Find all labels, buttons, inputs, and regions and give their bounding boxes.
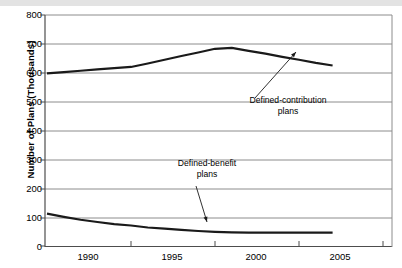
annotation-arrow-defined-contribution xyxy=(255,52,296,98)
y-axis-ticks xyxy=(40,15,45,246)
x-axis-ticks xyxy=(131,241,383,246)
series-line-defined-contribution xyxy=(47,48,333,73)
chart-plot xyxy=(0,0,402,268)
annotation-defined-benefit-line2: plans xyxy=(147,169,267,180)
chart-container: Number of Plans (Thousands) 800 700 600 … xyxy=(0,0,402,268)
annotation-defined-benefit: Defined-benefit plans xyxy=(147,158,267,180)
annotation-defined-contribution: Defined-contribution plans xyxy=(228,95,348,117)
annotation-defined-contribution-line1: Defined-contribution xyxy=(228,95,348,106)
annotation-arrow-defined-benefit xyxy=(196,186,207,222)
annotation-defined-benefit-line1: Defined-benefit xyxy=(147,158,267,169)
series-line-defined-benefit xyxy=(47,214,333,233)
annotation-defined-contribution-line2: plans xyxy=(228,106,348,117)
